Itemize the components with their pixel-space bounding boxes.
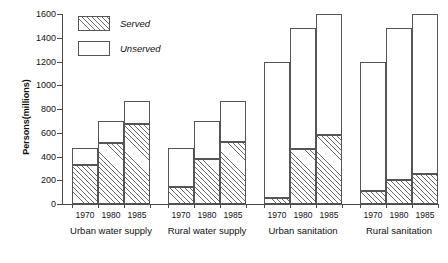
y-tick-label: 600 <box>41 128 56 137</box>
plot-area: 02004006008001000120014001600 1970198019… <box>62 14 438 204</box>
bar-segment-served <box>72 165 98 204</box>
x-tick-mark <box>360 204 361 208</box>
bar-segment-served <box>168 187 194 204</box>
x-tick-mark <box>246 204 247 208</box>
bar-segment-unserved <box>124 101 150 124</box>
bar-segment-served <box>264 198 290 204</box>
x-tick-mark <box>316 204 317 208</box>
stacked-bar <box>168 148 194 204</box>
y-tick-mark <box>57 180 62 181</box>
bar-segment-unserved <box>220 101 246 143</box>
x-tick-label: 1985 <box>320 210 339 220</box>
x-tick-mark <box>72 204 73 208</box>
y-tick-mark <box>57 38 62 39</box>
bar-segment-served <box>360 191 386 204</box>
x-tick-mark <box>412 204 413 208</box>
stacked-bar <box>316 14 342 204</box>
group-label: Rural water supply <box>168 225 247 236</box>
group-label: Urban sanitation <box>268 225 337 236</box>
x-tick-label: 1970 <box>172 210 191 220</box>
bar-group <box>168 14 246 204</box>
x-tick-mark <box>150 204 151 208</box>
x-tick-mark <box>220 204 221 208</box>
bar-group <box>264 14 342 204</box>
y-tick-mark <box>57 14 62 15</box>
stacked-bar <box>124 101 150 204</box>
y-tick-label: 1200 <box>36 57 56 66</box>
y-tick-mark <box>57 85 62 86</box>
bar-segment-unserved <box>264 62 290 199</box>
x-tick-mark <box>342 204 343 208</box>
x-tick-label: 1970 <box>76 210 95 220</box>
y-tick-label: 1600 <box>36 10 56 19</box>
y-tick-label: 200 <box>41 176 56 185</box>
y-tick-mark <box>57 109 62 110</box>
stacked-bar <box>220 101 246 204</box>
x-tick-mark <box>168 204 169 208</box>
x-tick-label: 1980 <box>198 210 217 220</box>
y-axis-line <box>62 14 63 204</box>
bar-segment-served <box>98 143 124 204</box>
bar-segment-served <box>194 159 220 204</box>
y-tick-mark <box>57 62 62 63</box>
stacked-bar <box>194 121 220 204</box>
y-tick-label: 0 <box>51 200 56 209</box>
bar-segment-unserved <box>316 14 342 135</box>
legend-label-served: Served <box>120 18 150 29</box>
bar-segment-served <box>316 135 342 204</box>
legend-swatch-served <box>78 16 110 31</box>
stacked-bar <box>360 62 386 205</box>
y-tick-mark <box>57 157 62 158</box>
bar-segment-unserved <box>194 121 220 159</box>
y-tick-mark <box>57 133 62 134</box>
bar-segment-served <box>220 142 246 204</box>
x-tick-mark <box>290 204 291 208</box>
x-tick-label: 1970 <box>268 210 287 220</box>
x-tick-mark <box>194 204 195 208</box>
bar-segment-unserved <box>412 14 438 174</box>
y-axis-tick-labels: 02004006008001000120014001600 <box>22 14 56 204</box>
bar-segment-served <box>386 180 412 204</box>
bar-segment-served <box>290 149 316 204</box>
x-tick-mark <box>98 204 99 208</box>
x-tick-label: 1985 <box>416 210 435 220</box>
bar-segment-unserved <box>290 28 316 149</box>
x-tick-label: 1985 <box>224 210 243 220</box>
group-label: Rural sanitation <box>366 225 432 236</box>
bar-group <box>360 14 438 204</box>
stacked-bar <box>290 28 316 204</box>
y-tick-mark <box>57 204 62 205</box>
x-tick-mark <box>386 204 387 208</box>
legend-swatch-unserved <box>78 41 110 56</box>
y-tick-label: 800 <box>41 105 56 114</box>
legend-label-unserved: Unserved <box>120 43 161 54</box>
y-tick-label: 1400 <box>36 33 56 42</box>
stacked-bar <box>386 28 412 204</box>
bar-segment-served <box>412 174 438 204</box>
stacked-bar <box>264 62 290 205</box>
bar-segment-unserved <box>386 28 412 180</box>
x-tick-label: 1970 <box>364 210 383 220</box>
y-tick-label: 1000 <box>36 81 56 90</box>
x-tick-label: 1980 <box>102 210 121 220</box>
bar-segment-served <box>124 124 150 204</box>
chart-figure: Persons(millions) 0200400600800100012001… <box>0 0 448 263</box>
y-tick-label: 400 <box>41 152 56 161</box>
stacked-bar <box>98 121 124 204</box>
x-tick-label: 1980 <box>294 210 313 220</box>
x-tick-mark <box>438 204 439 208</box>
bar-segment-unserved <box>168 148 194 187</box>
x-tick-mark <box>124 204 125 208</box>
x-tick-mark <box>264 204 265 208</box>
bar-segment-unserved <box>360 62 386 191</box>
bar-segment-unserved <box>72 148 98 165</box>
stacked-bar <box>412 14 438 204</box>
x-axis-line <box>62 204 438 205</box>
bar-segment-unserved <box>98 121 124 143</box>
x-tick-label: 1980 <box>390 210 409 220</box>
stacked-bar <box>72 148 98 204</box>
group-label: Urban water supply <box>70 225 152 236</box>
x-tick-label: 1985 <box>128 210 147 220</box>
